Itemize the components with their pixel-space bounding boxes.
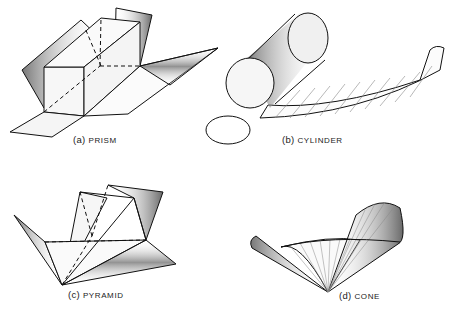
label-prefix: (c): [68, 289, 80, 300]
label-prefix: (b): [282, 134, 295, 145]
pyramid-development: [14, 185, 176, 285]
label-name: PYRAMID: [83, 291, 124, 300]
cylinder-development: [206, 13, 444, 144]
label-name: PRISM: [88, 136, 116, 145]
figure-label-prism: (a) PRISM: [73, 134, 117, 145]
cone-development: [251, 202, 403, 292]
label-prefix: (d): [339, 290, 352, 301]
label-name: CONE: [354, 292, 380, 301]
figure-label-cylinder: (b) CYLINDER: [282, 134, 343, 145]
label-prefix: (a): [73, 134, 86, 145]
figure-label-cone: (d) CONE: [339, 290, 380, 301]
developments-diagram: [0, 0, 458, 309]
prism-development: [10, 8, 218, 137]
figure-label-pyramid: (c) PYRAMID: [68, 289, 124, 300]
label-name: CYLINDER: [297, 136, 342, 145]
